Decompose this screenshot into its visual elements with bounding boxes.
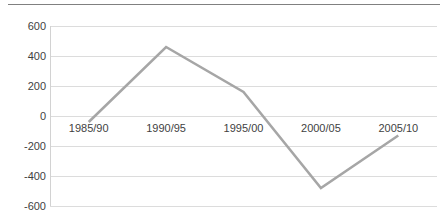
line-chart-figure: 6004002000-200-400-600 1985/901990/95199… (0, 0, 445, 222)
data-series-layer (0, 0, 445, 222)
series-line (89, 47, 399, 188)
